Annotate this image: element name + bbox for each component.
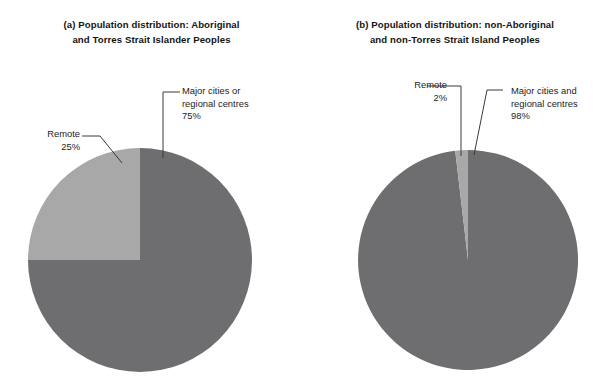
pie-chart-a: Major cities or regional centres 75% Rem… xyxy=(0,0,303,388)
figure-root: (a) Population distribution: Aboriginal … xyxy=(0,0,607,388)
chart-panel-a: (a) Population distribution: Aboriginal … xyxy=(0,0,303,388)
pie-chart-a-svg xyxy=(0,0,303,388)
callout-major-cities-a: Major cities or regional centres 75% xyxy=(182,85,297,123)
leader-line-major-cities-b xyxy=(474,90,503,155)
callout-remote-b: Remote 2% xyxy=(383,79,447,104)
pie-slice-remote-a xyxy=(28,148,140,260)
leader-line-major-cities-a xyxy=(163,92,180,158)
callout-remote-a: Remote 25% xyxy=(5,128,80,153)
pie-chart-b-svg xyxy=(303,0,607,388)
chart-panel-b: (b) Population distribution: non-Aborigi… xyxy=(303,0,607,388)
callout-major-cities-b: Major cities and regional centres 98% xyxy=(511,85,607,123)
pie-chart-b: Major cities and regional centres 98% Re… xyxy=(303,0,607,388)
pie-slice-major-cities-b xyxy=(358,150,578,370)
